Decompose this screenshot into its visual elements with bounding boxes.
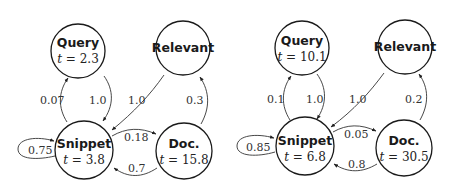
- edge-snippet-to-query: [283, 76, 291, 120]
- diagram-left: 0.07 1.0 1.0 0.3 0.18 0.7 0.75 Query t =…: [18, 21, 214, 179]
- label-query-to-snippet: 1.0: [306, 93, 324, 106]
- node-name: Snippet: [278, 133, 333, 148]
- node-name: Doc.: [388, 133, 419, 148]
- label-doc-to-relevant: 0.3: [186, 94, 204, 107]
- label-snippet-to-doc: 0.18: [124, 131, 149, 144]
- node-name: Query: [57, 35, 99, 50]
- node-snippet: Snippet t = 6.8: [276, 117, 334, 175]
- diagram-right: 0.1 1.0 1.0 0.2 0.05 0.8 0.85 Query t = …: [237, 20, 436, 176]
- node-relevant: Relevant: [152, 21, 214, 75]
- label-snippet-to-doc: 0.05: [344, 128, 369, 141]
- node-relevant: Relevant: [374, 20, 436, 74]
- node-time: t = 3.8: [63, 153, 105, 167]
- node-name: Query: [281, 33, 323, 48]
- label-doc-to-relevant: 0.2: [405, 93, 423, 106]
- node-name: Relevant: [152, 40, 214, 55]
- node-doc: Doc. t = 30.5: [376, 120, 432, 176]
- label-doc-to-snippet: 0.8: [348, 158, 366, 171]
- node-query: Query t = 2.3: [51, 24, 105, 78]
- label-snippet-to-query: 0.1: [267, 93, 285, 106]
- node-time: t = 15.8: [159, 153, 208, 167]
- label-relevant-to-snippet: 1.0: [349, 93, 367, 106]
- label-snippet-self: 0.85: [246, 141, 271, 154]
- node-name: Snippet: [57, 136, 112, 151]
- label-query-to-snippet: 1.0: [89, 94, 107, 107]
- node-name: Relevant: [374, 39, 436, 54]
- node-time: t = 30.5: [379, 150, 428, 164]
- label-snippet-to-query: 0.07: [40, 94, 65, 107]
- label-snippet-self: 0.75: [28, 144, 53, 157]
- markov-diagrams: 0.07 1.0 1.0 0.3 0.18 0.7 0.75 Query t =…: [0, 0, 451, 193]
- node-time: t = 10.1: [277, 50, 326, 64]
- node-doc: Doc. t = 15.8: [156, 123, 212, 179]
- node-name: Doc.: [168, 136, 199, 151]
- node-query: Query t = 10.1: [275, 21, 329, 75]
- node-snippet: Snippet t = 3.8: [55, 121, 113, 179]
- label-relevant-to-snippet: 1.0: [128, 94, 146, 107]
- node-time: t = 6.8: [284, 150, 326, 164]
- label-doc-to-snippet: 0.7: [128, 162, 146, 175]
- node-time: t = 2.3: [57, 52, 99, 66]
